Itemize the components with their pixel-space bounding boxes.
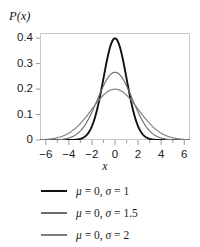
legend-line <box>41 190 67 192</box>
legend-entry[interactable]: μ = 0, σ = 2 <box>0 224 200 246</box>
legend-label: μ = 0, σ = 1 <box>76 185 129 197</box>
legend-line-swatch <box>41 190 67 192</box>
legend-line <box>41 234 67 235</box>
x-axis-label-text: x <box>102 159 107 174</box>
legend-entry[interactable]: μ = 0, σ = 1.5 <box>0 202 200 224</box>
legend-label: μ = 0, σ = 2 <box>76 229 129 241</box>
legend-line-swatch <box>41 212 67 213</box>
normal-distribution-figure: P(x) 0.40.30.20.10 −6−4−20246 x μ = 0, σ… <box>0 0 200 247</box>
legend-line-swatch <box>41 234 67 235</box>
legend-entry[interactable]: μ = 0, σ = 1 <box>0 180 200 202</box>
legend-line <box>41 212 67 213</box>
legend: μ = 0, σ = 1μ = 0, σ = 1.5μ = 0, σ = 2 <box>0 180 200 246</box>
x-axis-label: x <box>0 159 200 174</box>
legend-label: μ = 0, σ = 1.5 <box>76 207 138 219</box>
